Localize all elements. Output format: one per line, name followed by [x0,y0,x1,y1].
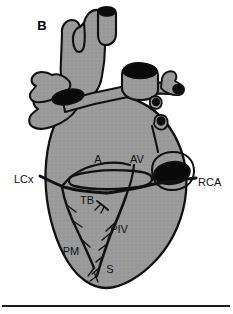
right-stub-mid-lumen-icon [152,98,159,105]
label-lcx: LCx [14,173,34,185]
label-rca: RCA [198,176,222,188]
caption-divider-rule [2,305,230,307]
svc-lumen-icon [123,64,157,79]
label-a: A [94,153,102,165]
label-s: S [106,263,113,275]
label-piv: PIV [110,223,128,235]
aorta-lumen-icon [99,8,116,16]
label-tb: TB [80,194,94,206]
panel-label-b: B [37,18,46,33]
figure-panel-b: B LCx A AV RCA TB PIV PM S [0,0,233,314]
heart-anatomy-diagram: B LCx A AV RCA TB PIV PM S [0,0,233,314]
right-stub-lower-lumen-icon [157,117,165,125]
right-stub-lumen-icon [173,84,183,93]
label-av: AV [130,153,145,165]
label-pm: PM [63,245,80,257]
heart-body-group [29,7,196,288]
